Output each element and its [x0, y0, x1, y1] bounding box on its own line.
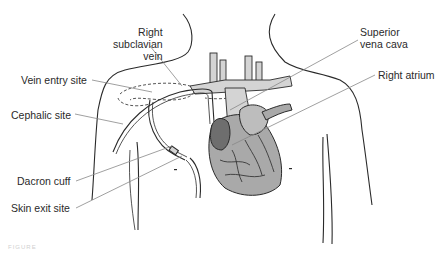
- figure-caption: FIGURE: [8, 244, 37, 250]
- dacron-cuff-shape: [169, 146, 178, 155]
- right-atrium-shape: [210, 118, 230, 150]
- label-right-atrium: Right atrium: [378, 69, 435, 81]
- catheter-diagram: Right subclavian vein Vein entry site Ce…: [0, 0, 444, 256]
- label-line: vein: [113, 50, 163, 62]
- label-line: subclavian: [113, 38, 163, 50]
- label-skin-exit-site: Skin exit site: [11, 202, 70, 214]
- heart: [209, 104, 292, 195]
- label-line: Superior: [360, 26, 408, 38]
- label-cephalic-site: Cephalic site: [11, 109, 71, 121]
- label-line: Right: [113, 26, 163, 38]
- label-superior-vena-cava: Superior vena cava: [360, 26, 408, 50]
- label-vein-entry-site: Vein entry site: [21, 74, 87, 86]
- label-line: vena cava: [360, 38, 408, 50]
- label-right-subclavian-vein: Right subclavian vein: [113, 26, 163, 62]
- label-dacron-cuff: Dacron cuff: [17, 175, 71, 187]
- catheter: [113, 89, 214, 198]
